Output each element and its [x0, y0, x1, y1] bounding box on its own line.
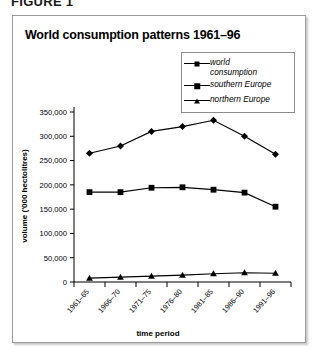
- data-point: [86, 150, 93, 157]
- data-series-layer: [86, 117, 279, 281]
- line-chart-svg: 050,000100,000150,000200,000250,000300,0…: [13, 16, 307, 344]
- x-axis-ticks: 1961–651966–701971–751976–801981–851986–…: [65, 282, 291, 315]
- figure-frame: World consumption patterns 1961–96 world…: [12, 15, 306, 343]
- series-triangle: [86, 269, 279, 280]
- data-point: [211, 187, 217, 193]
- y-tick-label: 150,000: [40, 205, 67, 214]
- data-point: [118, 189, 124, 195]
- x-tick-label: 1981–85: [189, 287, 215, 314]
- x-tick-label: 1966–70: [96, 287, 122, 314]
- y-tick-label: 0: [63, 278, 67, 287]
- data-point: [241, 133, 248, 140]
- y-axis-title: volume ('000 hectolitres): [20, 149, 29, 243]
- y-tick-label: 100,000: [40, 229, 67, 238]
- y-tick-label: 350,000: [40, 108, 67, 117]
- x-axis-title: time period: [136, 329, 179, 338]
- y-axis-ticks: 050,000100,000150,000200,000250,000300,0…: [40, 108, 74, 287]
- data-point: [242, 190, 248, 196]
- y-tick-label: 50,000: [44, 254, 67, 263]
- data-point: [148, 128, 155, 135]
- data-point: [210, 117, 217, 124]
- data-point: [273, 204, 279, 210]
- series-diamond: [86, 117, 279, 158]
- y-tick-label: 300,000: [40, 132, 67, 141]
- data-point: [179, 123, 186, 130]
- data-point: [272, 151, 279, 158]
- series-square: [87, 184, 279, 209]
- data-point: [117, 143, 124, 150]
- data-point: [149, 185, 155, 191]
- figure-caption: FIGURE 1: [11, 0, 73, 9]
- y-tick-label: 200,000: [40, 181, 67, 190]
- data-point: [87, 189, 93, 195]
- plot-area: 050,000100,000150,000200,000250,000300,0…: [13, 16, 307, 344]
- x-tick-label: 1961–65: [65, 287, 91, 314]
- x-tick-label: 1971–75: [127, 287, 153, 314]
- x-tick-label: 1991–96: [251, 287, 277, 314]
- x-tick-label: 1986–90: [220, 287, 246, 314]
- y-tick-label: 250,000: [40, 156, 67, 165]
- data-point: [180, 184, 186, 190]
- x-tick-label: 1976–80: [158, 287, 184, 314]
